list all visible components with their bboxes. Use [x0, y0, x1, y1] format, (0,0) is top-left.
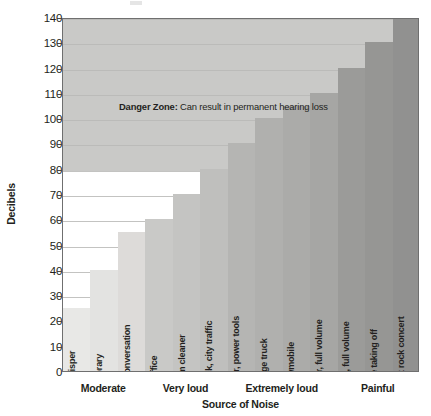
bar: MP3 player, full volume — [310, 93, 337, 371]
group-label: Moderate — [62, 382, 144, 394]
bar-label: jet plane taking off — [369, 329, 379, 372]
y-tick-label: 130 — [18, 37, 62, 49]
bar: whisper — [63, 308, 90, 371]
bar: snowmobile — [283, 106, 310, 372]
bar-label: alarm clock, city traffic — [204, 321, 214, 372]
bar: garbage truck — [255, 118, 282, 371]
bar: lawn mower, power tools — [228, 143, 255, 371]
gridline — [63, 19, 418, 20]
y-tick-label: 30 — [18, 290, 62, 302]
y-tick-label: 10 — [18, 341, 62, 353]
bar-label: normal conversation — [122, 325, 132, 372]
noise-decibel-chart: Decibels 0102030405060708090100110120130… — [0, 0, 431, 416]
group-label: Very loud — [144, 382, 226, 394]
danger-zone-annotation: Danger Zone: Can result in permanent hea… — [119, 101, 328, 112]
y-tick-label: 110 — [18, 88, 62, 100]
bar-label: car stereo, full volume — [341, 322, 351, 372]
danger-zone-body-text: Can result in permanent hearing loss — [178, 101, 328, 112]
bar: alarm clock, city traffic — [200, 169, 227, 371]
y-tick-label: 140 — [18, 12, 62, 24]
group-label: Extremely loud — [227, 382, 337, 394]
bar-label: garbage truck — [259, 339, 269, 372]
bar-label: snowmobile — [286, 342, 296, 372]
bar: front row at rock concert — [393, 18, 419, 371]
group-label: Painful — [337, 382, 419, 394]
bar-label: office — [149, 356, 159, 372]
bar: normal conversation — [118, 232, 145, 371]
y-tick-label: 50 — [18, 240, 62, 252]
y-tick-label: 60 — [18, 214, 62, 226]
crop-artifact — [130, 1, 142, 5]
y-axis: 0102030405060708090100110120130140 — [0, 0, 62, 416]
y-tick-label: 80 — [18, 164, 62, 176]
bar-label: library — [94, 354, 104, 372]
x-axis-title: Source of Noise — [62, 398, 419, 410]
bar-label: lawn mower, power tools — [231, 316, 241, 372]
bar: car stereo, full volume — [338, 68, 365, 371]
y-tick-label: 120 — [18, 63, 62, 75]
y-tick-label: 90 — [18, 138, 62, 150]
danger-zone-bold-text: Danger Zone: — [119, 101, 178, 112]
bar: jet plane taking off — [365, 42, 392, 371]
y-tick-label: 100 — [18, 113, 62, 125]
bar-label: vacuum cleaner — [177, 334, 187, 372]
y-tick-label: 20 — [18, 315, 62, 327]
bar-label: MP3 player, full volume — [314, 320, 324, 372]
y-tick-label: 0 — [18, 366, 62, 378]
bar: library — [90, 270, 117, 371]
bar-label: front row at rock concert — [396, 316, 406, 372]
y-tick-label: 70 — [18, 189, 62, 201]
plot-area: whisperlibrarynormal conversationofficev… — [62, 18, 419, 372]
y-tick-label: 40 — [18, 265, 62, 277]
bar: office — [145, 219, 172, 371]
bar-label: whisper — [67, 351, 77, 372]
bar: vacuum cleaner — [173, 194, 200, 371]
